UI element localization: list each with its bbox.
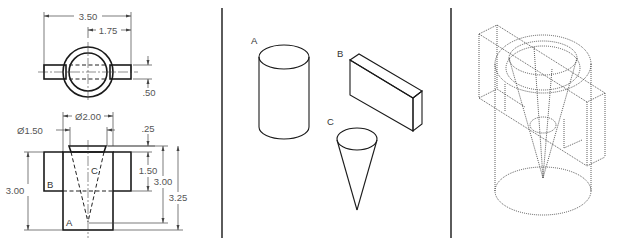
cylinder-label: A [251, 35, 258, 46]
primitive-cone: C [327, 116, 377, 210]
dim-cone-offset: .25 [141, 123, 154, 134]
dim-right-height: 3.00 [154, 176, 173, 187]
dim-outer-diameter: Ø2.00 [75, 111, 101, 122]
primitive-box: B [337, 48, 422, 131]
dim-cone-diameter: Ø1.50 [17, 125, 43, 136]
dim-box-height: 1.50 [139, 165, 158, 176]
dim-overall-width: 3.50 [79, 11, 98, 22]
engineering-drawing: 3.50 1.75 .50 Ø2.00 [0, 0, 627, 249]
label-a: A [66, 217, 73, 228]
combined-wireframe [479, 25, 605, 215]
top-view: 3.50 1.75 .50 [38, 11, 156, 102]
dim-total-height: 3.25 [169, 192, 188, 203]
cone-label: C [327, 116, 334, 127]
dim-arm-thickness: .50 [142, 87, 155, 98]
front-view: Ø2.00 Ø1.50 .25 B C A [6, 111, 188, 239]
dim-half-width: 1.75 [99, 25, 118, 36]
label-b: B [47, 179, 53, 190]
label-c: C [91, 165, 98, 176]
dim-left-height: 3.00 [6, 185, 25, 196]
box-label: B [337, 48, 343, 59]
primitive-cylinder: A [251, 35, 309, 139]
